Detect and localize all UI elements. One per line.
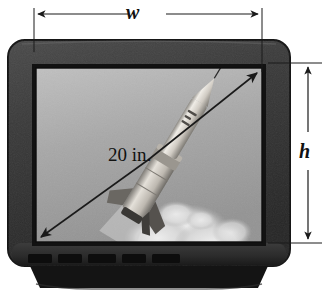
vent-slot — [152, 254, 180, 263]
tv-lower-panel — [12, 243, 286, 265]
vent-slot — [88, 254, 116, 263]
figure-canvas: w h 20 in. — [0, 0, 326, 300]
base-block — [30, 266, 268, 288]
speaker-vents — [28, 254, 180, 263]
vent-slot — [58, 254, 82, 263]
vent-slot — [122, 254, 146, 263]
tv-dimension-diagram — [0, 0, 326, 300]
width-label: w — [126, 1, 139, 24]
vent-slot — [28, 254, 52, 263]
height-label: h — [299, 140, 310, 163]
diagonal-length-label: 20 in. — [108, 144, 151, 166]
tv-base — [30, 266, 268, 289]
